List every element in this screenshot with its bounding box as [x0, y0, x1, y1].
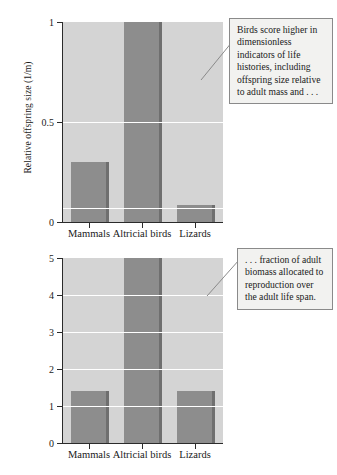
y-tick-mark-4: [57, 295, 62, 296]
plot-area-reproductive-effort: [62, 258, 223, 444]
y-tick-mark-5: [57, 258, 62, 259]
y-tick-mark-0: [57, 222, 62, 223]
figure-container: Relative offspring size (1/m) 0 0.5 1 Ma…: [0, 0, 337, 475]
chart-panel-reproductive-effort: Relative reproductive effort over adult …: [0, 240, 337, 475]
x-tick-lizards: [195, 444, 196, 449]
y-tick-label-0-5: 0.5: [30, 118, 54, 128]
bar-lizards: [177, 391, 215, 443]
plot-area-offspring-size: [62, 22, 223, 223]
y-tick-label-1: 1: [30, 402, 54, 412]
x-axis-label-altricial-birds: Altricial birds: [113, 449, 172, 461]
x-tick-altricial-birds: [142, 223, 143, 228]
y-tick-label-2: 2: [30, 365, 54, 375]
y-tick-mark-0: [57, 443, 62, 444]
bar-mammals: [71, 391, 109, 443]
bar-lizards: [177, 205, 215, 222]
y-tick-mark-2: [57, 369, 62, 370]
y-tick-mark-1: [57, 406, 62, 407]
x-tick-lizards: [195, 223, 196, 228]
chart-panel-offspring-size: Relative offspring size (1/m) 0 0.5 1 Ma…: [0, 0, 337, 240]
y-tick-mark-1: [57, 22, 62, 23]
bar-mammals: [71, 162, 109, 222]
callout-note-offspring-size: Birds score higher in dimensionless indi…: [229, 18, 333, 104]
x-axis-label-mammals: Mammals: [68, 449, 110, 461]
y-tick-label-5: 5: [30, 254, 54, 264]
x-tick-altricial-birds: [142, 444, 143, 449]
y-tick-label-3: 3: [30, 328, 54, 338]
y-tick-label-0: 0: [30, 218, 54, 228]
y-tick-label-0: 0: [30, 439, 54, 449]
bar-altricial-birds: [124, 22, 162, 222]
callout-note-reproductive-effort: . . . fraction of adult biomass allocate…: [237, 248, 333, 310]
x-axis-label-altricial-birds: Altricial birds: [113, 228, 172, 240]
y-tick-mark-3: [57, 332, 62, 333]
y-tick-label-4: 4: [30, 291, 54, 301]
x-tick-mammals: [89, 444, 90, 449]
x-tick-mammals: [89, 223, 90, 228]
y-tick-label-1: 1: [30, 18, 54, 28]
x-axis-label-lizards: Lizards: [179, 228, 211, 240]
x-axis-label-lizards: Lizards: [179, 449, 211, 461]
x-axis-label-mammals: Mammals: [68, 228, 110, 240]
y-tick-mark-0-5: [57, 122, 62, 123]
bar-altricial-birds: [124, 258, 162, 443]
